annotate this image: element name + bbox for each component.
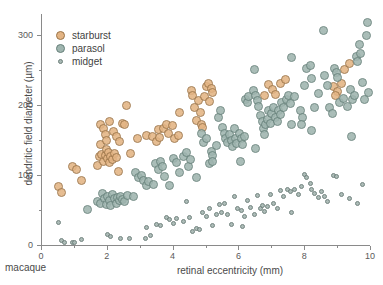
species-label: macaque bbox=[5, 262, 46, 273]
x-tick bbox=[238, 246, 239, 250]
data-point-parasol bbox=[169, 154, 178, 163]
data-point-parasol bbox=[98, 189, 107, 198]
data-point-starburst bbox=[104, 148, 113, 157]
data-point-starburst bbox=[202, 82, 211, 91]
data-point-parasol bbox=[240, 132, 249, 141]
data-point-parasol bbox=[267, 109, 276, 118]
data-point-parasol bbox=[319, 26, 328, 35]
data-point-starburst bbox=[345, 59, 354, 68]
data-point-midget bbox=[210, 223, 215, 228]
legend-item-starburst[interactable]: starburst bbox=[56, 29, 111, 42]
x-tick bbox=[304, 246, 305, 250]
data-point-parasol bbox=[102, 200, 111, 209]
data-point-midget bbox=[200, 210, 205, 215]
data-point-parasol bbox=[235, 129, 244, 138]
data-point-parasol bbox=[307, 74, 316, 83]
data-point-midget bbox=[299, 184, 304, 189]
data-point-midget bbox=[239, 208, 244, 213]
data-point-midget bbox=[322, 194, 327, 199]
data-point-midget bbox=[248, 205, 253, 210]
data-point-parasol bbox=[290, 92, 299, 101]
data-point-parasol bbox=[208, 157, 217, 166]
legend-item-parasol[interactable]: parasol bbox=[56, 42, 111, 55]
data-point-parasol bbox=[277, 98, 286, 107]
data-point-midget bbox=[62, 240, 67, 245]
data-point-parasol bbox=[279, 103, 288, 112]
data-point-starburst bbox=[54, 182, 63, 191]
data-point-midget bbox=[347, 196, 352, 201]
x-tick-label: 6 bbox=[226, 251, 250, 261]
data-point-midget bbox=[72, 240, 77, 245]
data-point-parasol bbox=[142, 181, 151, 190]
data-point-starburst bbox=[175, 108, 184, 117]
data-point-midget bbox=[316, 195, 321, 200]
data-point-parasol bbox=[182, 148, 191, 157]
data-point-midget bbox=[171, 221, 176, 226]
data-point-starburst bbox=[97, 150, 106, 159]
data-point-parasol bbox=[214, 113, 223, 122]
data-point-starburst bbox=[99, 157, 108, 166]
data-point-parasol bbox=[134, 173, 143, 182]
data-point-midget bbox=[190, 229, 195, 234]
data-point-midget bbox=[105, 232, 110, 237]
data-point-parasol bbox=[120, 197, 129, 206]
legend-item-midget[interactable]: midget bbox=[56, 55, 111, 68]
data-point-starburst bbox=[271, 90, 280, 99]
data-point-midget bbox=[235, 206, 240, 211]
data-point-midget bbox=[158, 223, 163, 228]
data-point-parasol bbox=[156, 157, 165, 166]
data-point-starburst bbox=[187, 86, 196, 95]
data-point-midget bbox=[334, 174, 339, 179]
data-point-parasol bbox=[282, 95, 291, 104]
data-point-starburst bbox=[174, 131, 183, 140]
data-point-starburst bbox=[57, 188, 66, 197]
data-point-parasol bbox=[241, 95, 250, 104]
x-tick bbox=[41, 246, 42, 250]
x-tick-minor bbox=[271, 246, 272, 248]
y-tick bbox=[37, 245, 41, 246]
data-point-starburst bbox=[105, 117, 114, 126]
data-point-parasol bbox=[192, 173, 201, 182]
data-point-parasol bbox=[144, 177, 153, 186]
data-point-midget bbox=[285, 187, 290, 192]
data-point-starburst bbox=[148, 132, 157, 141]
data-point-parasol bbox=[287, 120, 296, 129]
x-tick bbox=[370, 246, 371, 250]
data-point-midget bbox=[258, 206, 263, 211]
data-point-starburst bbox=[340, 65, 349, 74]
data-point-parasol bbox=[202, 134, 211, 143]
data-point-starburst bbox=[115, 137, 124, 146]
data-point-starburst bbox=[162, 120, 171, 129]
data-point-starburst bbox=[126, 149, 135, 158]
data-point-parasol bbox=[264, 106, 273, 115]
data-point-midget bbox=[289, 210, 294, 215]
data-point-starburst bbox=[68, 162, 77, 171]
data-point-parasol bbox=[286, 99, 295, 108]
data-point-midget bbox=[154, 222, 159, 227]
data-point-starburst bbox=[112, 153, 121, 162]
data-point-starburst bbox=[142, 131, 151, 140]
legend-label-starburst: starburst bbox=[72, 30, 111, 41]
data-point-midget bbox=[308, 181, 313, 186]
data-point-parasol bbox=[83, 205, 92, 214]
data-point-parasol bbox=[129, 192, 138, 201]
data-point-midget bbox=[207, 206, 212, 211]
data-point-parasol bbox=[256, 111, 265, 120]
data-point-starburst bbox=[164, 129, 173, 138]
data-point-midget bbox=[302, 172, 307, 177]
y-tick bbox=[37, 175, 41, 176]
data-point-parasol bbox=[216, 106, 225, 115]
data-point-starburst bbox=[101, 151, 110, 160]
data-point-parasol bbox=[297, 120, 306, 129]
midget-marker-icon bbox=[58, 59, 63, 64]
y-tick-label: 0 bbox=[6, 240, 33, 250]
data-point-starburst bbox=[101, 130, 110, 139]
data-point-starburst bbox=[133, 134, 142, 143]
data-point-parasol bbox=[231, 134, 240, 143]
data-point-parasol bbox=[298, 113, 307, 122]
data-point-parasol bbox=[355, 40, 364, 49]
data-point-parasol bbox=[96, 199, 105, 208]
data-point-parasol bbox=[158, 162, 167, 171]
data-point-midget bbox=[79, 237, 84, 242]
data-point-starburst bbox=[276, 79, 285, 88]
